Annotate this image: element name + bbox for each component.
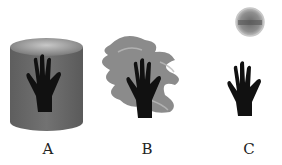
smoke-illustration bbox=[90, 0, 200, 140]
hand-icon bbox=[227, 61, 261, 116]
panel-label-c: C bbox=[234, 140, 264, 158]
panel-label-a: A bbox=[33, 140, 63, 158]
sphere-hand-illustration bbox=[200, 0, 282, 140]
panel-label-b: B bbox=[132, 140, 162, 158]
sphere-icon bbox=[236, 8, 264, 36]
cylinder-illustration bbox=[0, 0, 100, 140]
